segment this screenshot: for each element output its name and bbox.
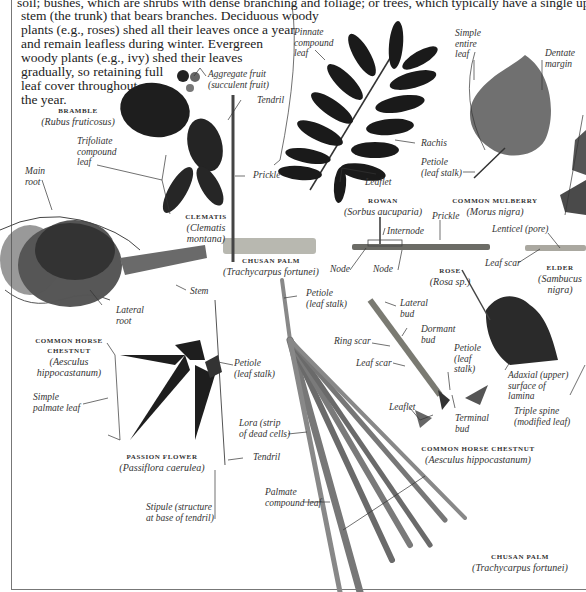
intro-line-7: leaf cover throughout — [21, 79, 137, 93]
intro-line-4: and remain leafless during winter. Everg… — [21, 37, 263, 51]
specimen-elder: ELDER (Sambucus nigra) — [532, 263, 586, 295]
label-petiole-horse-chestnut: Petiole(leafstalk) — [454, 343, 481, 375]
label-leaflet-horse-chestnut: Leaflet — [389, 402, 415, 413]
label-node-1: Node — [330, 264, 350, 275]
specimen-horse-chestnut-twig: COMMON HORSE CHESTNUT (Aesculus hippocas… — [413, 444, 543, 465]
label-aggregate-fruit: Aggregate fruit(succulent fruit) — [208, 69, 269, 90]
intro-line-2: stem (the trunk) that bears branches. De… — [21, 9, 319, 23]
label-lateral-root: Lateralroot — [116, 305, 144, 326]
label-leaf-scar-elder: Leaf scar — [485, 258, 521, 269]
adaxial-leaf-illustration — [486, 296, 558, 365]
label-ring-scar: Ring scar — [334, 336, 371, 347]
specimen-mulberry: COMMON MULBERRY (Morus nigra) — [445, 196, 545, 217]
label-rachis: Rachis — [421, 138, 447, 149]
label-petiole-passion-flower: Petiole(leaf stalk) — [234, 358, 275, 379]
label-triple-spine: Triple spine(modified leaf) — [514, 406, 570, 427]
label-dentate-margin: Dentatemargin — [545, 48, 575, 69]
label-prickle-bramble: Prickle — [253, 170, 280, 181]
label-trifoliate-leaf: Trifoliatecompoundleaf — [77, 136, 117, 168]
label-prickle-rose: Prickle — [432, 211, 459, 222]
label-simple-palmate-leaf: Simplepalmate leaf — [33, 392, 80, 413]
label-adaxial-surface: Adaxial (upper)surface oflamina — [508, 370, 568, 402]
label-petiole-mulberry: Petiole(leaf stalk) — [421, 157, 462, 178]
specimen-chusan-palm-leaf: CHUSAN PALM (Trachycarpus fortunei) — [455, 552, 585, 573]
specimen-rowan: ROWAN (Sorbus aucuparia) — [338, 196, 428, 217]
label-node-2: Node — [373, 264, 393, 275]
label-petiole-palm: Petiole(leaf stalk) — [306, 288, 347, 309]
label-lenticel: Lenticel (pore) — [492, 224, 548, 235]
specimen-passion-flower: PASSION FLOWER (Passiflora caerulea) — [112, 452, 212, 473]
label-palmate-compound-leaf: Palmatecompound leaf — [265, 487, 321, 508]
label-lateral-bud: Lateralbud — [400, 298, 428, 319]
specimen-horse-chestnut-root: COMMON HORSE CHESTNUT (Aesculus hippocas… — [24, 336, 114, 378]
mulberry-illustration — [470, 55, 551, 178]
label-lora: Lora (stripof dead cells) — [239, 418, 290, 439]
label-dormant-bud: Dormantbud — [421, 324, 455, 345]
specimen-chusan-palm-stem: CHUSAN PALM (Trachycarpus fortunei) — [216, 256, 326, 277]
specimen-clematis: CLEMATIS (Clematis montana) — [176, 212, 236, 244]
label-leaf-scar-horse-chestnut: Leaf scar — [356, 358, 392, 369]
specimen-bramble: BRAMBLE (Rubus fruticosus) — [38, 106, 118, 127]
label-simple-entire-leaf: Simpleentireleaf — [455, 28, 481, 60]
intro-line-6: gradually, so retaining full — [21, 65, 163, 79]
label-leaflet-rowan: Leaflet — [365, 177, 391, 188]
label-main-root: Mainroot — [25, 166, 45, 187]
intro-line-3: plants (e.g., roses) shed all their leav… — [21, 23, 295, 37]
specimen-rose: ROSE (Rosa sp.) — [425, 266, 475, 287]
intro-line-5: woody plants (e.g., ivy) shed their leav… — [21, 51, 243, 65]
label-terminal-bud: Terminalbud — [455, 413, 489, 434]
label-internode: Internode — [387, 226, 424, 237]
label-pinnate-compound-leaf: Pinnatecompoundleaf — [294, 27, 334, 59]
intro-line-8: the year. — [21, 93, 67, 107]
label-tendril-bramble: Tendril — [257, 95, 284, 106]
label-tendril-passion-flower: Tendril — [253, 452, 280, 463]
label-stem: Stem — [190, 286, 208, 297]
label-stipule: Stipule (structureat base of tendril) — [146, 502, 214, 523]
